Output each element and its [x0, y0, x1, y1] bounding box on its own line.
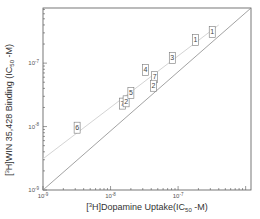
data-point-label: 2	[151, 82, 155, 89]
data-point: 1	[209, 26, 215, 37]
data-points: 6725472311	[74, 26, 215, 133]
data-point: 2	[150, 80, 156, 91]
data-point-label: 3	[170, 54, 174, 61]
identity-line	[43, 8, 251, 190]
data-point: 1	[192, 35, 198, 46]
y-tick-label: 10-7	[28, 59, 39, 67]
reference-lines	[43, 8, 251, 190]
data-point: 3	[169, 53, 175, 64]
data-point: 5	[128, 87, 134, 98]
x-axis-title: [3H]Dopamine Uptake(IC50 -M)	[86, 202, 208, 213]
x-tick-label: 10-7	[173, 192, 184, 200]
data-point-label: 5	[129, 89, 133, 96]
data-point-label: 1	[193, 36, 197, 43]
data-point-label: 4	[144, 66, 148, 73]
y-tick-label: 10-9	[28, 186, 39, 194]
data-point: 6	[74, 122, 80, 133]
data-point-label: 7	[153, 73, 157, 80]
data-point: 4	[143, 64, 149, 75]
x-tick-label: 10-8	[105, 192, 116, 200]
scatter-chart: 10-910-810-710-910-810-7 6725472311 [3H]…	[0, 0, 260, 219]
data-point-label: 6	[75, 124, 79, 131]
y-tick-label: 10-8	[28, 122, 39, 130]
axis-tick-labels: 10-910-810-710-910-810-7	[28, 59, 184, 199]
data-point-label: 1	[210, 28, 214, 35]
x-tick-label: 10-9	[38, 192, 49, 200]
data-point-label: 2	[124, 98, 128, 105]
y-axis-title: [3H]WIN 35,428 Binding (IC50 -M)	[4, 44, 15, 176]
